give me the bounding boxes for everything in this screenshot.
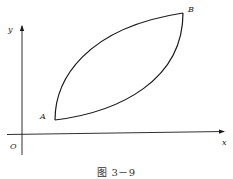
x-axis <box>7 132 224 135</box>
x-axis-label: x <box>222 138 227 147</box>
point-a-label: A <box>39 112 46 121</box>
upper-curve <box>55 13 183 120</box>
origin-label: O <box>10 142 17 151</box>
figure-caption: 图 3－9 <box>0 164 233 179</box>
point-b-label: B <box>187 5 194 14</box>
cycle-diagram: A B y x O <box>0 0 233 179</box>
y-axis-label: y <box>7 25 13 34</box>
